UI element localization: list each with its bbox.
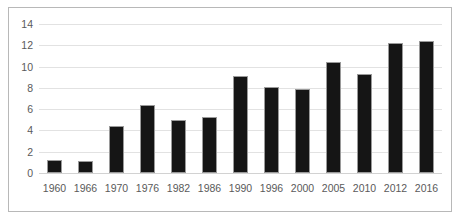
bar	[47, 160, 62, 173]
x-axis-tick-label: 1976	[136, 183, 159, 194]
y-axis-tick-label: 2	[27, 146, 33, 157]
x-axis-tick-label: 1990	[229, 183, 252, 194]
y-axis-tick-label: 8	[27, 83, 33, 94]
bars-layer	[39, 24, 442, 173]
x-axis-tick-label: 1966	[74, 183, 97, 194]
gridline	[39, 173, 442, 174]
bar	[357, 74, 372, 173]
x-axis-tick-label: 1986	[198, 183, 221, 194]
bar	[78, 161, 93, 173]
bar	[264, 87, 279, 173]
chart-frame: 02468101214 1960196619701976198219861990…	[8, 7, 452, 212]
bar	[326, 62, 341, 173]
x-axis-tick-label: 1996	[260, 183, 283, 194]
x-axis-tick-label: 2016	[415, 183, 438, 194]
plot-area: 02468101214	[39, 24, 442, 173]
x-axis-tick-label: 1982	[167, 183, 190, 194]
x-axis-tick-label: 1970	[105, 183, 128, 194]
x-axis-tick-label: 2010	[353, 183, 376, 194]
bar	[171, 120, 186, 173]
y-axis-tick-label: 12	[21, 40, 33, 51]
x-axis-tick-label: 1960	[43, 183, 66, 194]
y-axis-tick-label: 0	[27, 168, 33, 179]
y-axis-tick-label: 14	[21, 19, 33, 30]
x-axis-tick-label: 2005	[322, 183, 345, 194]
bar	[388, 43, 403, 173]
bar	[233, 76, 248, 173]
y-axis-tick-label: 10	[21, 61, 33, 72]
x-axis-tick-label: 2000	[291, 183, 314, 194]
bar	[109, 126, 124, 173]
bar	[140, 105, 155, 173]
bar	[202, 117, 217, 173]
bar	[419, 41, 434, 173]
x-axis-tick-label: 2012	[384, 183, 407, 194]
y-axis-tick-label: 6	[27, 104, 33, 115]
x-axis-tick-labels: 1960196619701976198219861990199620002005…	[39, 183, 442, 197]
y-axis-tick-label: 4	[27, 125, 33, 136]
bar	[295, 89, 310, 173]
